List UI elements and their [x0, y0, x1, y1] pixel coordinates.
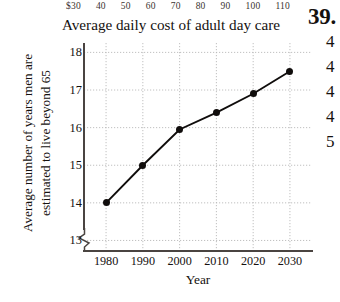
cost-scale-row: $30 40 50 60 70 80 90 100 110	[66, 0, 290, 13]
cost-scale-value: 90	[221, 1, 231, 11]
y-axis-tick-label: 17	[56, 84, 82, 96]
exercise-number: 39.	[308, 4, 336, 29]
y-axis-tick-label: 15	[56, 159, 82, 171]
y-axis-tick-label: 13	[56, 234, 82, 246]
clipped-line: 5	[326, 132, 335, 151]
x-axis-line	[83, 250, 313, 252]
line-chart: 131415161718 198019902000201020202030 Ye…	[56, 40, 314, 302]
textbook-page-fragment: $30 40 50 60 70 80 90 100 110 Average da…	[0, 0, 340, 302]
plot-area	[84, 43, 312, 251]
cost-scale-value: 70	[171, 1, 181, 11]
x-axis-tick-label: 2020	[233, 254, 273, 268]
chart-caption: Average daily cost of adult day care	[38, 14, 304, 35]
clipped-line: 4	[326, 57, 335, 76]
clipped-line: 4	[326, 107, 335, 126]
y-axis-line	[83, 43, 85, 230]
x-axis-tick-label: 1990	[123, 254, 163, 268]
cost-scale-value: $30	[66, 1, 81, 11]
cost-scale-value: 110	[275, 1, 290, 11]
x-axis-tick-label: 2030	[270, 254, 310, 268]
cost-scale-value: 60	[146, 1, 156, 11]
data-point	[213, 109, 220, 116]
y-axis-title-line: Average number of years men are	[19, 18, 37, 268]
data-series	[84, 43, 312, 251]
cost-scale-value: 50	[121, 1, 131, 11]
x-axis-title: Year	[84, 272, 312, 288]
x-axis-tick-label: 2010	[196, 254, 236, 268]
cost-scale-value: 80	[196, 1, 206, 11]
data-point	[103, 199, 110, 206]
cost-scale-value: 100	[246, 1, 261, 11]
y-axis-tick-label: 18	[56, 46, 82, 58]
y-axis-tick-label: 14	[56, 197, 82, 209]
y-axis-tick-label: 16	[56, 122, 82, 134]
y-axis-title-line: estimated to live beyond 65	[37, 18, 55, 268]
y-axis-title: Average number of years men are estimate…	[19, 18, 55, 268]
x-axis-tick-label: 1980	[86, 254, 126, 268]
cost-scale-value: 40	[96, 1, 106, 11]
data-point	[250, 90, 257, 97]
clipped-line: 4	[326, 82, 335, 101]
clipped-line: 4	[326, 32, 335, 51]
x-axis-tick-label: 2000	[160, 254, 200, 268]
